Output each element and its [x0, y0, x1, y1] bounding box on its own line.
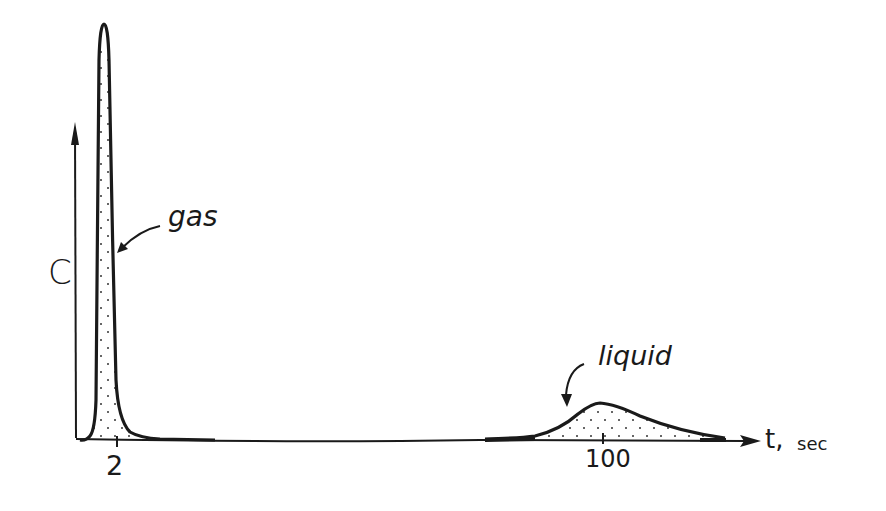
liquid-pointer-arrow	[566, 364, 584, 395]
x-tick-label-100: 100	[585, 445, 631, 473]
x-tick-label-2: 2	[106, 450, 123, 481]
y-axis-label: C	[48, 252, 72, 292]
x-axis-label: t,	[765, 424, 783, 454]
gas-annotation: gas	[168, 200, 218, 233]
liquid-arrowhead-icon	[561, 394, 572, 407]
gas-pointer-arrow	[122, 226, 160, 248]
liquid-peak	[485, 364, 728, 440]
chromatogram-sketch	[0, 0, 886, 511]
liquid-annotation: liquid	[598, 340, 672, 371]
x-axis-unit: sec	[797, 433, 827, 454]
y-axis-arrowhead-icon	[71, 122, 79, 145]
y-axis	[71, 122, 79, 438]
